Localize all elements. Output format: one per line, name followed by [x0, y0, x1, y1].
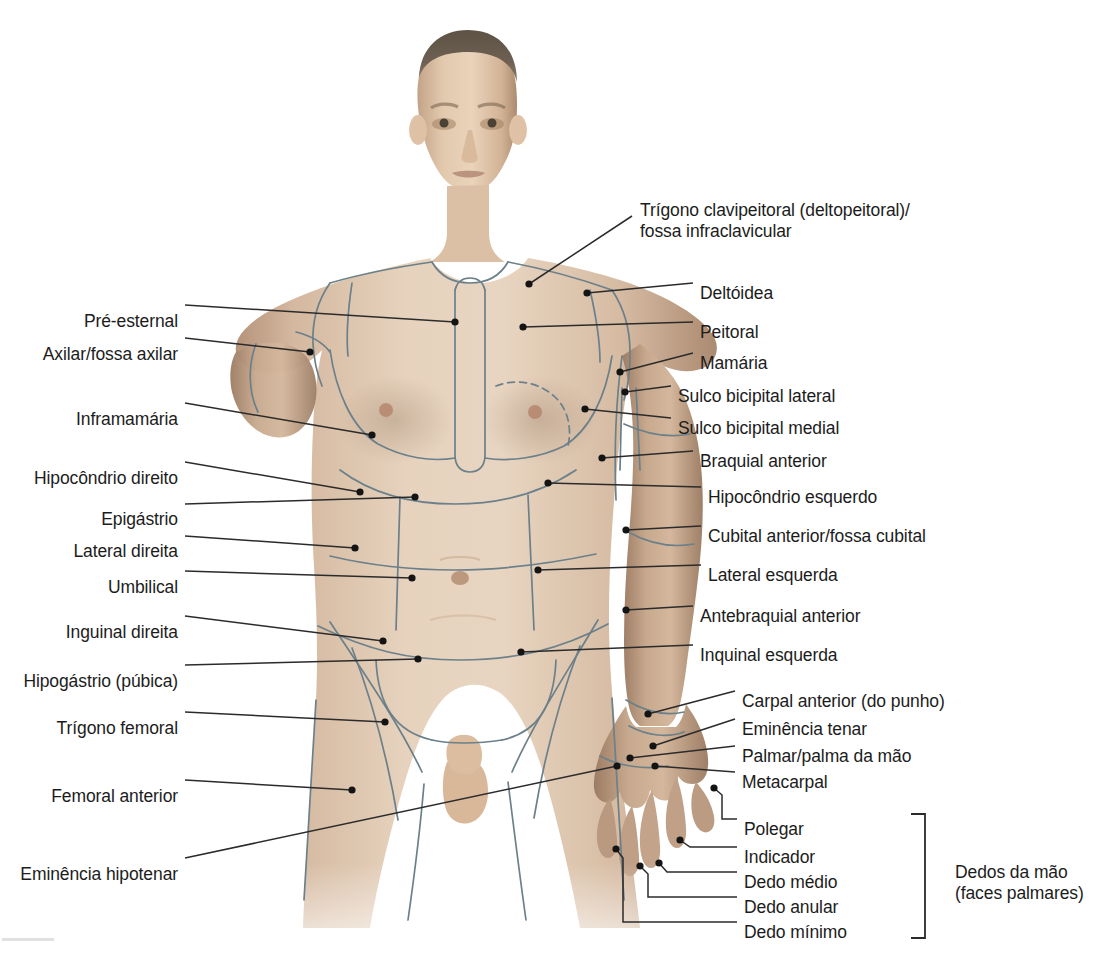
label-dedo-anular: Dedo anular — [744, 897, 838, 918]
leader-dot-carpal-anterior — [644, 710, 651, 717]
leader-epigastrio — [185, 497, 415, 504]
leader-dot-mamaria — [616, 368, 623, 375]
label-eminencia-hipotenar: Eminência hipotenar — [20, 864, 178, 885]
leader-antebraquial-anterior — [626, 606, 693, 610]
leader-inquinal-esquerda — [521, 645, 693, 652]
leader-dot-trigono-clavipeitoral — [525, 280, 532, 287]
leader-dot-hipocondrio-direito — [356, 488, 363, 495]
leader-carpal-anterior — [648, 691, 735, 714]
leader-peitoral — [523, 322, 693, 327]
leader-dot-palmar — [626, 754, 633, 761]
label-femoral-anterior: Femoral anterior — [51, 786, 178, 807]
leader-inframamaria — [185, 403, 372, 435]
leader-dot-dedo-anular — [636, 862, 643, 869]
leader-femoral-anterior — [185, 780, 352, 790]
leader-dot-pre-esternal — [451, 318, 458, 325]
label-dedo-medio: Dedo médio — [744, 872, 837, 893]
leader-dedo-anular — [640, 866, 737, 897]
label-trigono-clavipeitoral: Trígono clavipeitoral (deltopeitoral)/ f… — [640, 200, 910, 242]
leader-polegar — [714, 788, 737, 819]
label-eminencia-tenar: Eminência tenar — [742, 719, 867, 740]
label-pre-esternal: Pré-esternal — [84, 311, 178, 332]
label-hipocondrio-esquerdo: Hipocôndrio esquerdo — [708, 487, 877, 508]
label-dedos-da-mao: Dedos da mão (faces palmares) — [955, 862, 1084, 904]
label-hipocondrio-direito: Hipocôndrio direito — [34, 468, 178, 489]
leader-braquial-anterior — [602, 451, 693, 458]
leader-dedo-medio — [659, 863, 737, 872]
label-polegar: Polegar — [744, 819, 804, 840]
leader-dot-hipocondrio-esquerdo — [544, 479, 551, 486]
label-sulco-bicipital-medial: Sulco bicipital medial — [678, 418, 839, 439]
leader-dot-dedo-medio — [655, 859, 662, 866]
leader-trigono-clavipeitoral — [529, 216, 632, 284]
leader-eminencia-hipotenar — [185, 766, 617, 858]
leader-sulco-bicipital-medial — [585, 409, 671, 418]
label-trigono-femoral: Trígono femoral — [57, 718, 178, 739]
label-hipogastrio: Hipogástrio (púbica) — [23, 671, 178, 692]
label-lateral-esquerda: Lateral esquerda — [708, 565, 838, 586]
leader-dot-inquinal-esquerda — [517, 648, 524, 655]
label-dedo-minimo: Dedo mínimo — [744, 922, 847, 943]
label-mamaria: Mamária — [700, 353, 767, 374]
leader-dot-hipogastrio — [414, 655, 421, 662]
leader-palmar — [630, 746, 735, 758]
leader-dot-umbilical — [408, 574, 415, 581]
label-deltoidea: Deltóidea — [700, 283, 773, 304]
label-inquinal-esquerda: Inquinal esquerda — [700, 645, 837, 666]
leader-dot-lateral-esquerda — [534, 566, 541, 573]
leader-dot-deltoidea — [583, 289, 590, 296]
leader-dot-braquial-anterior — [598, 454, 605, 461]
leader-dot-dedo-minimo — [612, 845, 619, 852]
label-inframamaria: Inframamária — [76, 409, 178, 430]
leader-lateral-esquerda — [538, 565, 701, 570]
leader-dot-antebraquial-anterior — [622, 606, 629, 613]
leader-metacarpal — [655, 766, 735, 772]
leader-dot-femoral-anterior — [348, 786, 355, 793]
scan-edge-artifact — [2, 938, 54, 941]
leader-umbilical — [185, 571, 412, 578]
label-cubital-anterior: Cubital anterior/fossa cubital — [708, 526, 926, 547]
label-sulco-bicipital-lateral: Sulco bicipital lateral — [678, 386, 835, 407]
leader-dot-inguinal-direita — [379, 637, 386, 644]
label-palmar: Palmar/palma da mão — [742, 746, 911, 767]
label-lateral-direita: Lateral direita — [73, 541, 178, 562]
leader-mamaria — [620, 353, 693, 372]
label-umbilical: Umbilical — [108, 577, 178, 598]
label-epigastrio: Epigástrio — [101, 509, 178, 530]
leader-trigono-femoral — [185, 712, 385, 722]
leader-sulco-bicipital-lateral — [625, 386, 671, 392]
label-braquial-anterior: Braquial anterior — [700, 451, 827, 472]
leader-pre-esternal — [185, 305, 455, 322]
label-inguinal-direita: Inguinal direita — [66, 622, 178, 643]
leader-dot-sulco-bicipital-medial — [581, 405, 588, 412]
leader-dot-epigastrio — [411, 493, 418, 500]
leader-dot-metacarpal — [651, 762, 658, 769]
leader-indicador — [680, 840, 737, 847]
bracket-dedos-da-mao — [911, 814, 925, 938]
leader-dot-cubital-anterior — [622, 526, 629, 533]
leader-dot-lateral-direita — [351, 544, 358, 551]
leader-dedo-minimo — [616, 849, 737, 922]
leader-inguinal-direita — [185, 616, 383, 641]
leader-dot-indicador — [676, 836, 683, 843]
label-indicador: Indicador — [744, 847, 815, 868]
leader-dot-inframamaria — [368, 431, 375, 438]
leader-cubital-anterior — [626, 526, 701, 530]
leader-hipogastrio — [185, 659, 418, 665]
leader-dot-eminencia-hipotenar — [613, 762, 620, 769]
label-antebraquial-anterior: Antebraquial anterior — [700, 606, 860, 627]
label-peitoral: Peitoral — [700, 322, 759, 343]
leader-deltoidea — [587, 283, 693, 293]
leader-dot-trigono-femoral — [381, 718, 388, 725]
anatomy-figure: Pré-esternalAxilar/fossa axilarInframamá… — [0, 0, 1109, 958]
leader-hipocondrio-direito — [185, 462, 360, 492]
leader-dot-axilar — [306, 348, 313, 355]
leader-dot-sulco-bicipital-lateral — [621, 388, 628, 395]
label-axilar: Axilar/fossa axilar — [43, 344, 178, 365]
label-carpal-anterior: Carpal anterior (do punho) — [742, 691, 945, 712]
label-metacarpal: Metacarpal — [742, 772, 828, 793]
leader-eminencia-tenar — [653, 719, 735, 746]
leader-hipocondrio-esquerdo — [548, 483, 701, 487]
leader-dot-polegar — [710, 784, 717, 791]
leader-axilar — [185, 338, 310, 352]
